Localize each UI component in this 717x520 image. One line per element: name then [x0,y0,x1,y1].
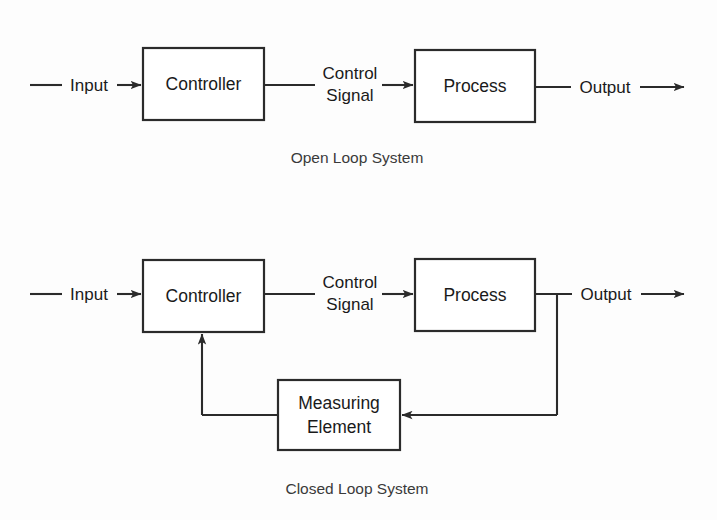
closed-loop-controller-label: Controller [166,286,242,306]
measuring-element-label-line1: Measuring [298,393,380,413]
measuring-element-label-line2: Element [307,417,371,437]
open-loop-input-label: Input [70,76,108,95]
open-loop-output-label: Output [579,78,630,97]
closed-loop-output-label: Output [580,285,631,304]
open-loop-control-signal-label-line2: Signal [326,86,373,105]
open-loop-controller-label: Controller [166,74,242,94]
open-loop-process-label: Process [443,76,506,96]
closed-loop-caption: Closed Loop System [285,480,428,497]
closed-loop-control-signal-label-line1: Control [323,273,378,292]
open-loop-control-signal-label-line1: Control [323,64,378,83]
open-loop-diagram: Input Controller Control Signal Process … [30,48,684,166]
closed-loop-control-signal-label-line2: Signal [326,295,373,314]
diagram-root: Input Controller Control Signal Process … [0,0,717,520]
open-loop-caption: Open Loop System [291,149,424,166]
block-diagram-canvas: Input Controller Control Signal Process … [0,0,717,520]
measuring-element-block [278,380,400,450]
closed-loop-input-label: Input [70,285,108,304]
closed-loop-process-label: Process [443,285,506,305]
closed-loop-diagram: Input Controller Control Signal Process … [30,259,684,497]
